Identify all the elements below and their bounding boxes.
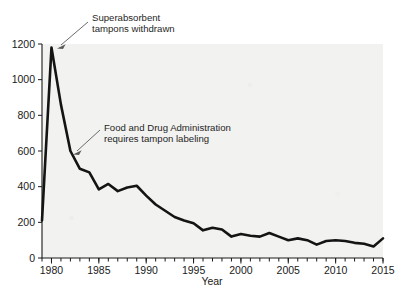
annotation-superabsorbent-line-1: Superabsorbent: [92, 12, 161, 23]
x-tick-label: 2010: [324, 264, 348, 276]
y-tick-label: 400: [17, 180, 35, 192]
y-tick-label: 800: [17, 109, 35, 121]
annotation-superabsorbent-line-2: tampons withdrawn: [92, 23, 175, 34]
line-chart: 020040060080010001200 198019851990199520…: [0, 0, 397, 303]
x-tick-label: 2015: [371, 264, 395, 276]
x-tick-label: 1980: [40, 264, 64, 276]
x-tick-label: 2005: [277, 264, 301, 276]
y-tick-label: 600: [17, 145, 35, 157]
annotation-fda-labeling-line-1: Food and Drug Administration: [104, 122, 231, 133]
x-tick-label: 2000: [229, 264, 253, 276]
y-tick-label: 1000: [12, 73, 36, 85]
y-tick-label: 0: [29, 252, 35, 264]
chart-container: 020040060080010001200 198019851990199520…: [0, 0, 397, 303]
y-tick-label: 200: [17, 216, 35, 228]
x-tick-label: 1985: [87, 264, 111, 276]
x-tick-label: 1990: [135, 264, 159, 276]
y-tick-label: 1200: [12, 38, 36, 50]
x-axis-title: Year: [201, 275, 223, 287]
plot-area-background: [42, 44, 383, 258]
annotation-fda-labeling-line-2: requires tampon labeling: [104, 133, 209, 144]
